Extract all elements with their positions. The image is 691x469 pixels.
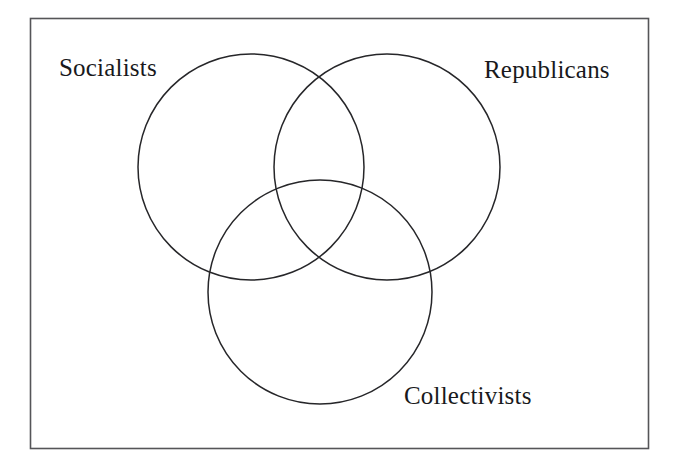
- venn-label-republicans: Republicans: [484, 56, 610, 84]
- venn-label-socialists: Socialists: [59, 54, 157, 82]
- venn-label-collectivists: Collectivists: [404, 382, 532, 410]
- venn-figure: Socialists Republicans Collectivists: [0, 0, 691, 469]
